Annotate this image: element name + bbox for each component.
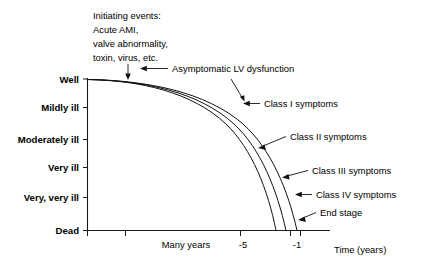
asymptomatic-label: Asymptomatic LV dysfunction (172, 63, 294, 74)
heart-failure-progression-chart: Well Mildly ill Moderately ill Very ill … (0, 0, 423, 270)
initiating-events-line-4: toxin, virus, etc. (93, 52, 158, 63)
x-label-minus-five: -5 (239, 239, 247, 250)
class-2-label: Class II symptoms (290, 131, 367, 142)
class-3-label: Class III symptoms (312, 165, 391, 176)
end-stage-label: End stage (320, 207, 362, 218)
class-1-label: Class I symptoms (264, 98, 338, 109)
x-label-minus-one: -1 (293, 239, 301, 250)
y-label-dead: Dead (56, 225, 80, 236)
initiating-events-line-2: Acute AMI, (93, 24, 138, 35)
class-4-label: Class IV symptoms (316, 189, 397, 200)
chart-svg: Well Mildly ill Moderately ill Very ill … (0, 0, 423, 270)
x-label-many-years: Many years (162, 239, 211, 250)
y-label-well: Well (59, 74, 79, 85)
y-label-very-very-ill: Very, very ill (24, 192, 79, 203)
y-label-very-ill: Very ill (48, 162, 79, 173)
y-label-moderately-ill: Moderately ill (18, 134, 79, 145)
initiating-events-line-3: valve abnormality, (93, 38, 168, 49)
initiating-events-line-1: Initiating events: (93, 10, 161, 21)
y-label-mildly-ill: Mildly ill (41, 102, 79, 113)
x-axis-title: Time (years) (334, 244, 386, 255)
